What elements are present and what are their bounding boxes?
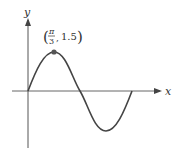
svg-text:): )	[77, 28, 83, 46]
fraction-denominator: 3	[49, 37, 54, 46]
x-axis-label: x	[165, 85, 172, 98]
svg-text:(: (	[43, 28, 49, 46]
y-axis-label: y	[23, 6, 31, 19]
svg-text:,: ,	[56, 33, 59, 43]
point-y-value: 1.5	[61, 31, 77, 42]
sine-graph: x y ( π 3 , 1.5 )	[0, 0, 177, 155]
fraction-numerator: π	[48, 27, 55, 36]
max-point-label: ( π 3 , 1.5 )	[43, 27, 83, 46]
max-point-dot	[51, 49, 56, 54]
